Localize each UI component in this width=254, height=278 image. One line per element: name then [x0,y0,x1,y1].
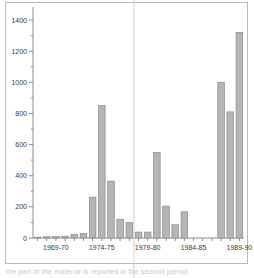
bar [126,222,133,238]
bar [34,237,41,238]
bar [218,82,225,238]
x-tick-label: 1969-70 [43,244,69,251]
chart-svg: 02004006008001000120014001969-701974-751… [0,0,254,278]
y-tick-label: 800 [15,110,27,117]
bar [172,225,179,238]
bar [236,32,243,238]
plot-area: 02004006008001000120014001969-701974-751… [0,0,254,278]
figure-caption-partial: the part of the material is reported in … [6,268,246,277]
y-tick-label: 1000 [11,79,27,86]
bar [144,232,151,238]
bar [117,219,124,238]
bar [99,106,106,238]
bar [80,234,87,238]
bar-chart-figure: 02004006008001000120014001969-701974-751… [0,0,254,278]
bar [89,197,96,238]
y-tick-label: 400 [15,172,27,179]
bar [227,112,234,238]
y-tick-label: 1400 [11,17,27,24]
bar [43,237,50,238]
y-tick-label: 200 [15,203,27,210]
y-tick-label: 1200 [11,48,27,55]
x-tick-label: 1974-75 [89,244,115,251]
y-tick-label: 0 [23,235,27,242]
x-tick-label: 1989-90 [227,244,253,251]
bar [62,236,69,238]
bar [181,212,188,238]
bar [71,235,78,238]
y-tick-label: 600 [15,141,27,148]
bar [163,206,170,238]
bar [53,236,60,238]
x-tick-label: 1984-85 [181,244,207,251]
x-tick-label: 1979-80 [135,244,161,251]
bar [154,152,161,238]
bar [108,181,115,238]
bar [135,232,142,238]
